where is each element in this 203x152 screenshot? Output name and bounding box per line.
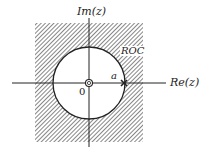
origin-label: 0 [79,87,85,97]
roc-label: ROC [120,46,145,56]
real-axis-label: Re(z) [170,77,199,88]
pole-label: a [111,71,117,81]
zero-marker-icon [86,80,93,87]
imaginary-axis-label: Im(z) [77,6,106,17]
